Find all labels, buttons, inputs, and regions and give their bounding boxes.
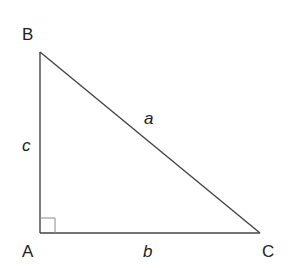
right-angle-marker xyxy=(40,218,55,233)
triangle-diagram: B A C a b c xyxy=(0,0,292,268)
side-label-a: a xyxy=(144,109,153,128)
side-label-c: c xyxy=(22,136,31,155)
vertex-label-c: C xyxy=(262,242,274,261)
vertex-label-a: A xyxy=(22,242,34,261)
vertex-label-b: B xyxy=(22,25,33,44)
triangle-svg: B A C a b c xyxy=(0,0,292,268)
side-label-b: b xyxy=(143,242,152,261)
side-a-hypotenuse xyxy=(40,52,260,233)
